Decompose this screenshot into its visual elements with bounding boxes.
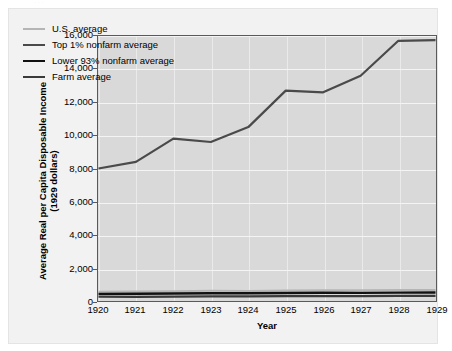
series-line bbox=[98, 290, 435, 292]
legend-line-swatch-icon bbox=[23, 76, 45, 78]
x-axis-tick-label: 1923 bbox=[191, 305, 231, 315]
legend-item[interactable]: Farm average bbox=[23, 69, 223, 85]
y-axis-tick-label: 4,000 bbox=[49, 230, 93, 239]
chart-legend: U.S. averageTop 1% nonfarm averageLower … bbox=[23, 21, 223, 85]
legend-line-swatch-icon bbox=[23, 60, 45, 62]
y-axis-tick-label: 6,000 bbox=[49, 197, 93, 206]
x-axis-tick-label: 1920 bbox=[78, 305, 118, 315]
x-axis-tick-label: 1929 bbox=[417, 305, 452, 315]
x-axis-title: Year bbox=[97, 320, 437, 331]
chart-panel: Average Real per Capita Disposable Incom… bbox=[8, 8, 438, 344]
y-axis-tick-label: 10,000 bbox=[49, 130, 93, 139]
x-axis-tick-labels: 1920192119221923192419251926192719281929 bbox=[97, 305, 437, 319]
legend-line-swatch-icon bbox=[23, 28, 45, 30]
cut-off-header-text: · · · bbox=[34, 0, 120, 5]
legend-item-label: Farm average bbox=[52, 72, 111, 82]
legend-item[interactable]: U.S. average bbox=[23, 21, 223, 37]
x-axis-tick-label: 1925 bbox=[266, 305, 306, 315]
series-line bbox=[98, 293, 435, 294]
x-axis-tick-label: 1926 bbox=[304, 305, 344, 315]
y-axis-tick-label: 12,000 bbox=[49, 97, 93, 106]
legend-item-label: Lower 93% nonfarm average bbox=[52, 56, 174, 66]
series-line bbox=[98, 296, 435, 297]
x-axis-tick-label: 1924 bbox=[228, 305, 268, 315]
y-axis-tick-label: 8,000 bbox=[49, 164, 93, 173]
legend-item[interactable]: Top 1% nonfarm average bbox=[23, 37, 223, 53]
y-axis-tick-mark bbox=[93, 302, 97, 303]
legend-item-label: U.S. average bbox=[52, 24, 107, 34]
legend-item-label: Top 1% nonfarm average bbox=[52, 40, 158, 50]
legend-item[interactable]: Lower 93% nonfarm average bbox=[23, 53, 223, 69]
x-axis-tick-label: 1928 bbox=[379, 305, 419, 315]
y-axis-tick-label: 2,000 bbox=[49, 264, 93, 273]
x-axis-tick-label: 1922 bbox=[153, 305, 193, 315]
x-axis-tick-label: 1921 bbox=[115, 305, 155, 315]
legend-line-swatch-icon bbox=[23, 44, 45, 46]
x-axis-tick-label: 1927 bbox=[341, 305, 381, 315]
